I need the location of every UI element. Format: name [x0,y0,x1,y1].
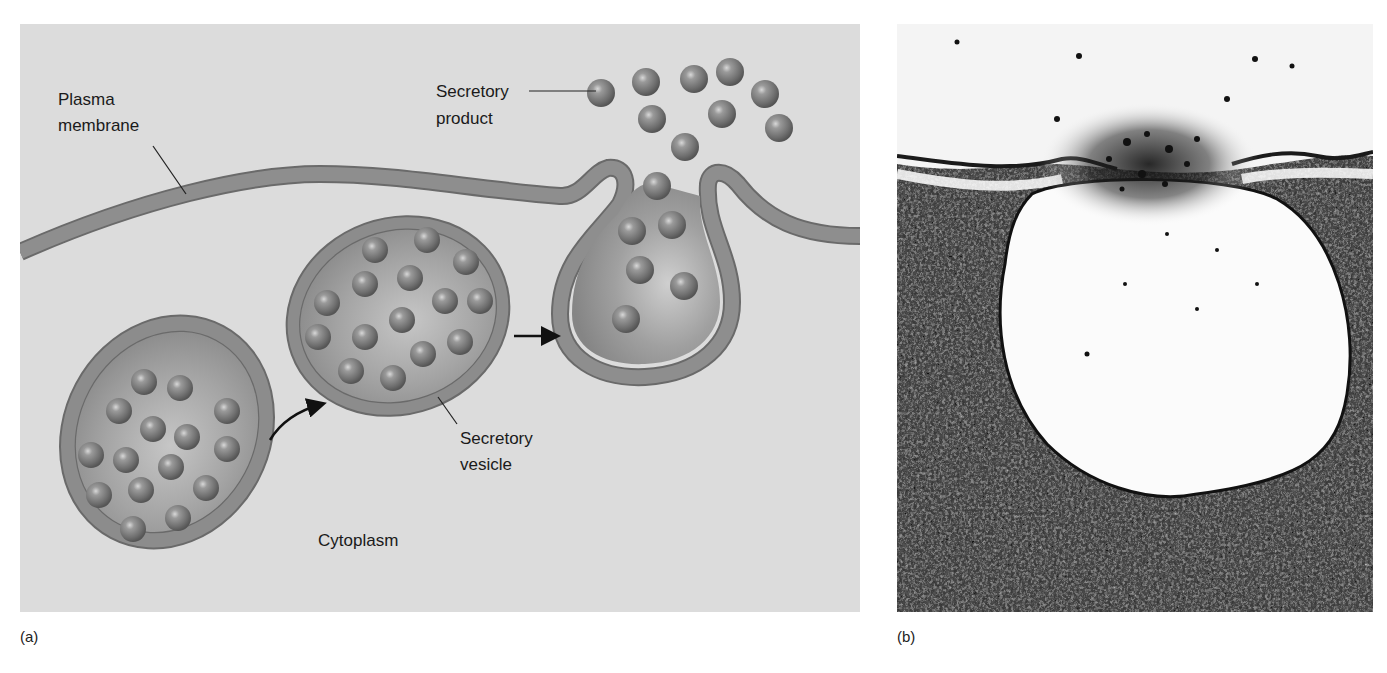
label-plasma-membrane-1: Plasma [58,90,115,109]
panel-letter-a: (a) [20,628,38,645]
panel-b-micrograph [897,24,1373,612]
panel-a-illustration: Plasma membrane Secretory product Secret… [20,24,860,612]
label-secretory-vesicle-1: Secretory [460,429,533,448]
label-plasma-membrane-2: membrane [58,116,139,135]
panel-letter-b: (b) [897,628,915,645]
label-secretory-product-1: Secretory [436,82,509,101]
label-cytoplasm: Cytoplasm [318,531,398,550]
exocytosis-diagram: Plasma membrane Secretory product Secret… [20,24,860,612]
label-secretory-product-2: product [436,109,493,128]
micrograph-image [897,24,1373,612]
label-secretory-vesicle-2: vesicle [460,455,512,474]
